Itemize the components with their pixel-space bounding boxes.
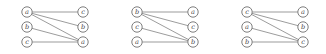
- node-label: b: [25, 23, 29, 31]
- graph-edge: [252, 28, 298, 40]
- node-label: c: [81, 8, 85, 16]
- graph-node: c: [242, 7, 252, 17]
- graph-edge: [142, 14, 189, 39]
- graph-node: a: [242, 22, 252, 32]
- edge-group: [32, 12, 79, 42]
- graph-edge: [32, 28, 78, 40]
- graph-2: bcaacb: [110, 0, 220, 54]
- graph-node: b: [22, 22, 32, 32]
- graph-node: a: [298, 7, 308, 17]
- node-label: a: [191, 8, 195, 16]
- graph-3-canvas: cababc: [220, 0, 326, 54]
- node-label: c: [245, 8, 249, 16]
- node-label: a: [301, 8, 305, 16]
- node-label: c: [135, 23, 139, 31]
- graph-1-canvas: abccba: [0, 0, 110, 54]
- graph-edge: [32, 13, 78, 25]
- edge-group: [252, 12, 299, 42]
- node-label: a: [245, 23, 249, 31]
- graph-node: a: [188, 7, 198, 17]
- node-label: a: [135, 38, 139, 46]
- graph-node: a: [78, 37, 88, 47]
- graph-edge: [142, 28, 188, 40]
- graph-node: b: [132, 7, 142, 17]
- graph-edge: [32, 14, 79, 39]
- node-label: b: [245, 38, 249, 46]
- graph-node: b: [78, 22, 88, 32]
- graph-node: c: [22, 37, 32, 47]
- graph-node: a: [132, 37, 142, 47]
- node-label: c: [25, 38, 29, 46]
- graph-node: b: [298, 22, 308, 32]
- node-label: a: [81, 38, 85, 46]
- graph-node: b: [188, 37, 198, 47]
- graph-node: a: [22, 7, 32, 17]
- node-label: c: [191, 23, 195, 31]
- graph-node: c: [298, 37, 308, 47]
- graph-node: c: [78, 7, 88, 17]
- graph-3: cababc: [220, 0, 326, 54]
- graph-edge: [142, 13, 188, 25]
- graph-1: abccba: [0, 0, 110, 54]
- bipartite-graph-figure: abccbabcaacbcababc: [0, 0, 326, 54]
- node-label: a: [25, 8, 29, 16]
- graph-node: c: [188, 22, 198, 32]
- edge-group: [142, 12, 189, 42]
- graph-2-canvas: bcaacb: [110, 0, 220, 54]
- graph-edge: [252, 14, 299, 39]
- graph-edge: [252, 13, 298, 25]
- graph-node: c: [132, 22, 142, 32]
- node-label: b: [135, 8, 139, 16]
- node-label: b: [301, 23, 305, 31]
- graph-node: b: [242, 37, 252, 47]
- node-label: b: [81, 23, 85, 31]
- node-label: b: [191, 38, 195, 46]
- node-label: c: [301, 38, 305, 46]
